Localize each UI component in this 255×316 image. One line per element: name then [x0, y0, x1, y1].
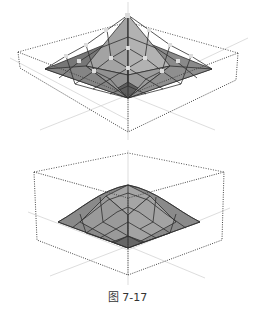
bottom-surface: [58, 185, 200, 248]
top-figure: [10, 2, 248, 140]
figure-caption: 图 7-17: [0, 288, 255, 304]
diagram-canvas: [0, 0, 255, 316]
top-surface: [45, 15, 212, 98]
bottom-figure: [28, 150, 230, 285]
